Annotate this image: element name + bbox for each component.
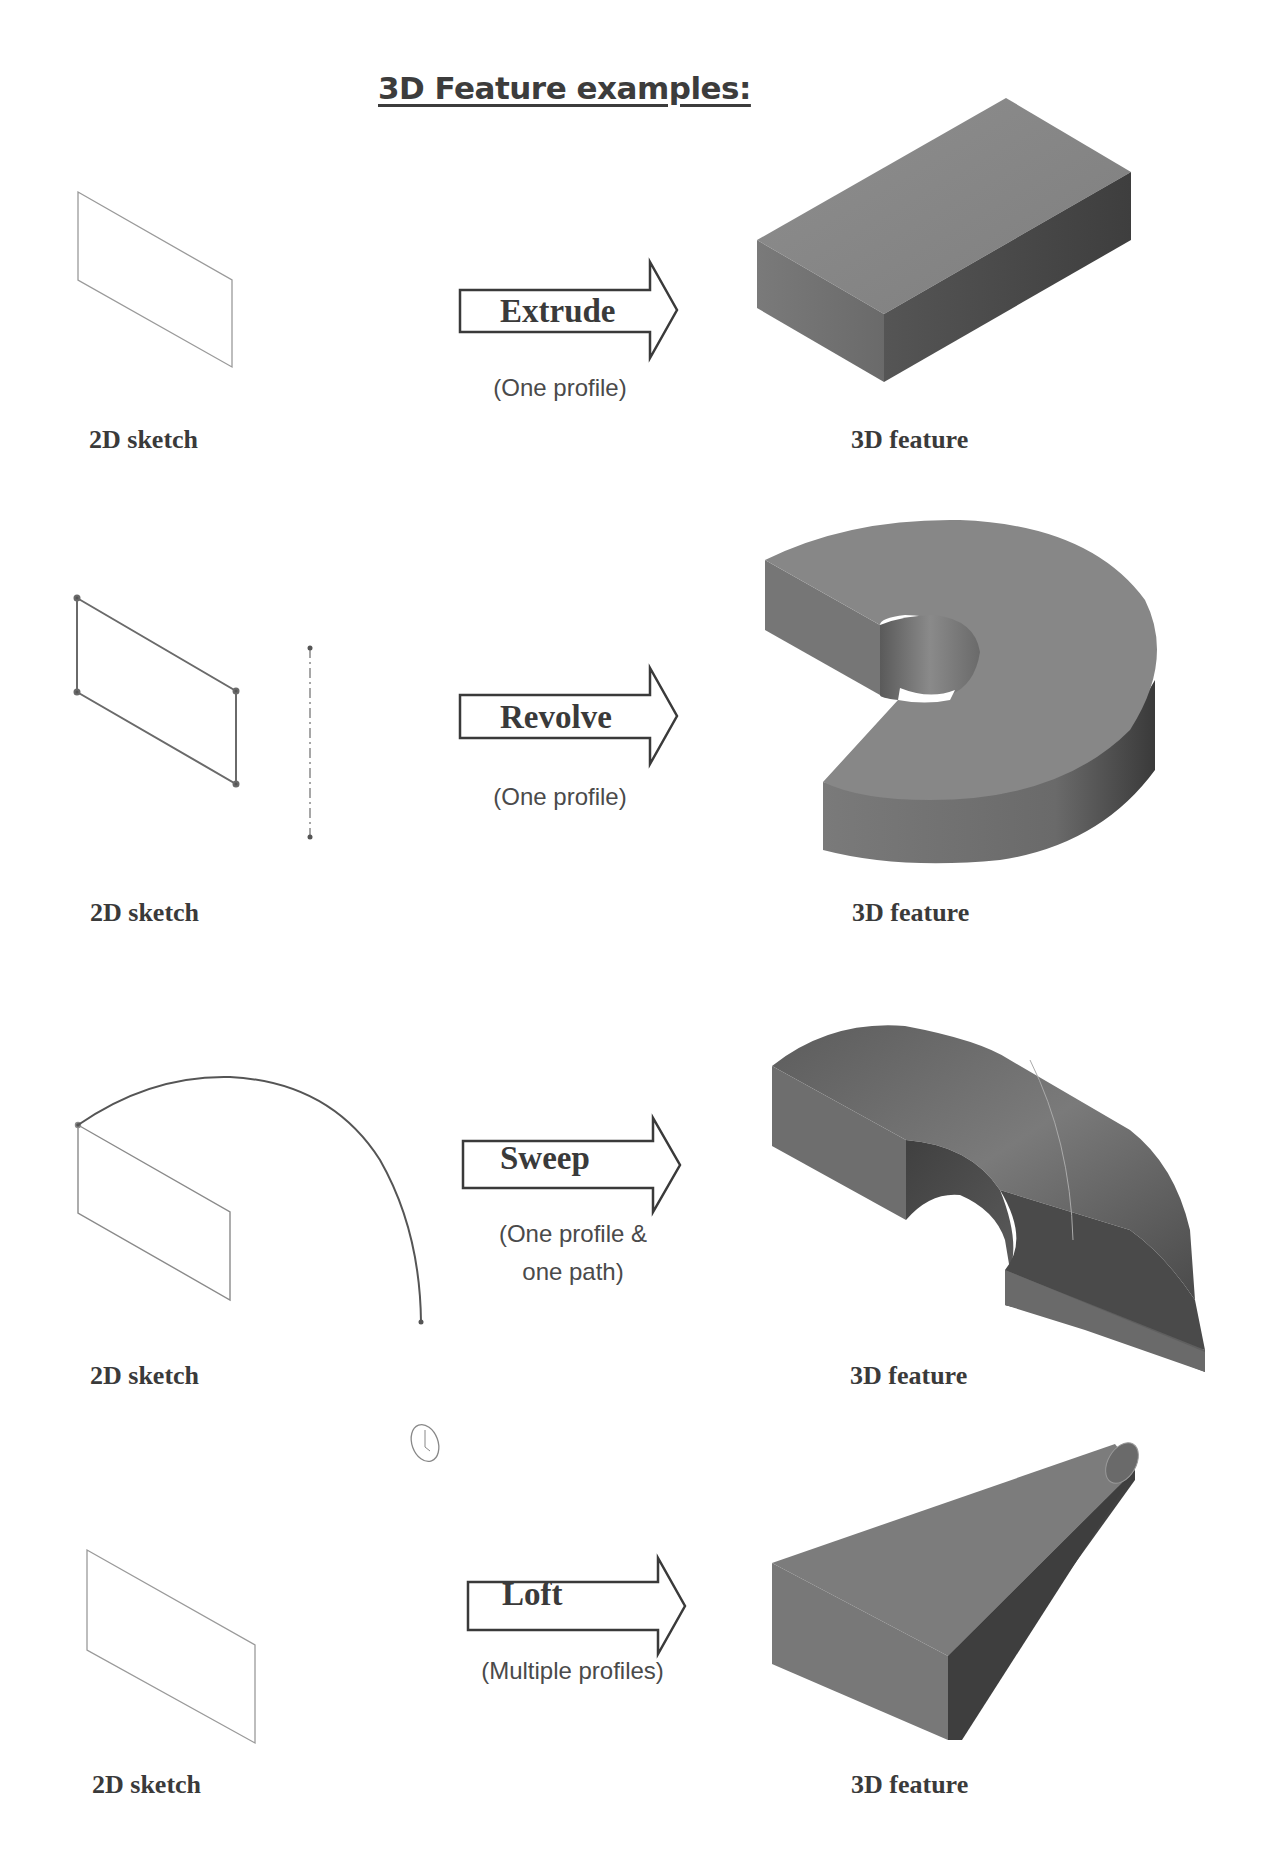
- operation-label-revolve: Revolve: [500, 699, 612, 736]
- operation-note-sweep: (One profile & one path): [473, 1215, 673, 1291]
- arrow-loft: [468, 1558, 685, 1654]
- sketch-path-sweep: [78, 1077, 424, 1325]
- note-line: (Multiple profiles): [450, 1652, 695, 1690]
- operation-note-revolve: (One profile): [460, 778, 660, 816]
- operation-label-sweep: Sweep: [500, 1140, 590, 1177]
- operation-label-extrude: Extrude: [500, 293, 616, 330]
- solid-ring-revolve: [765, 520, 1157, 863]
- revolve-centerline: [308, 646, 313, 840]
- caption-2d-sketch-sweep: 2D sketch: [90, 1361, 199, 1391]
- caption-3d-feature-extrude: 3D feature: [851, 425, 968, 455]
- note-line: (One profile): [460, 778, 660, 816]
- caption-2d-sketch-revolve: 2D sketch: [90, 898, 199, 928]
- caption-3d-feature-sweep: 3D feature: [850, 1361, 967, 1391]
- operation-note-extrude: (One profile): [460, 369, 660, 407]
- caption-2d-sketch-extrude: 2D sketch: [89, 425, 198, 455]
- solid-loft: [772, 1437, 1145, 1740]
- sketch-profile-sweep: [76, 1123, 231, 1301]
- caption-2d-sketch-loft: 2D sketch: [92, 1770, 201, 1800]
- sketch-rectangle-revolve: [75, 596, 239, 787]
- operation-note-loft: (Multiple profiles): [450, 1652, 695, 1690]
- note-line: (One profile): [460, 369, 660, 407]
- sketch-circle-loft: [406, 1421, 443, 1466]
- caption-3d-feature-loft: 3D feature: [851, 1770, 968, 1800]
- note-line: one path): [473, 1253, 673, 1291]
- operation-label-loft: Loft: [502, 1576, 563, 1613]
- solid-sweep: [772, 1025, 1205, 1372]
- sketch-rectangle-loft: [87, 1550, 255, 1743]
- sketch-rectangle-extrude: [78, 192, 232, 367]
- solid-block-extrude: [757, 98, 1131, 382]
- note-line: (One profile &: [473, 1215, 673, 1253]
- caption-3d-feature-revolve: 3D feature: [852, 898, 969, 928]
